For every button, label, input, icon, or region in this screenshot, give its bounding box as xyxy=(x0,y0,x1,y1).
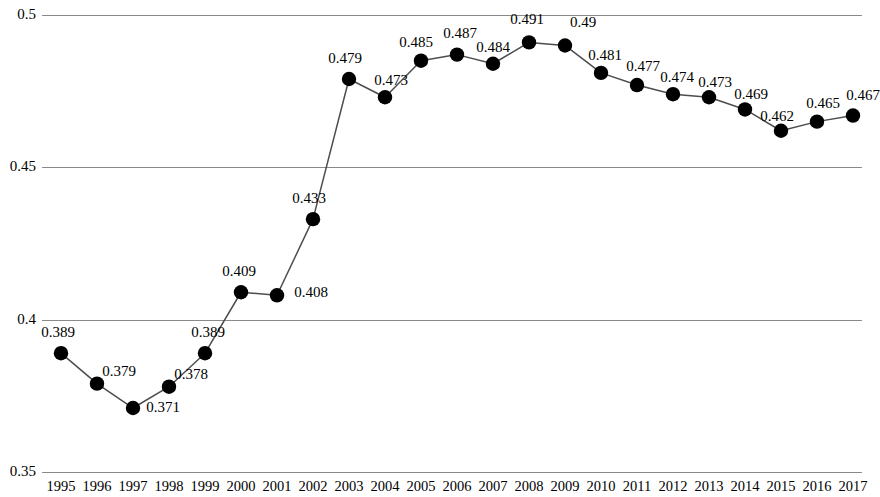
data-point-2001 xyxy=(270,288,284,302)
data-label-1996: 0.379 xyxy=(102,364,136,379)
data-label-2016: 0.465 xyxy=(806,96,840,111)
data-label-2000: 0.409 xyxy=(222,264,256,279)
data-label-2011: 0.477 xyxy=(626,59,660,74)
data-label-1999: 0.389 xyxy=(191,325,225,340)
data-point-2011 xyxy=(630,78,644,92)
data-point-1995 xyxy=(54,346,68,360)
data-label-2012: 0.474 xyxy=(660,70,694,85)
data-label-1998: 0.378 xyxy=(174,367,208,382)
data-point-2000 xyxy=(234,285,248,299)
data-label-2009: 0.49 xyxy=(570,15,596,30)
data-label-2004: 0.473 xyxy=(374,73,408,88)
data-label-2006: 0.487 xyxy=(443,26,477,41)
data-point-2005 xyxy=(414,54,428,68)
data-label-2010: 0.481 xyxy=(588,48,622,63)
data-point-2007 xyxy=(486,57,500,71)
data-label-2002: 0.433 xyxy=(292,191,326,206)
data-label-1997: 0.371 xyxy=(146,400,180,415)
data-label-2007: 0.484 xyxy=(476,40,510,55)
data-point-2014 xyxy=(738,102,752,116)
data-point-2008 xyxy=(522,35,536,49)
data-label-2008: 0.491 xyxy=(510,12,544,27)
data-point-2004 xyxy=(378,90,392,104)
data-point-2016 xyxy=(810,114,824,128)
data-point-2012 xyxy=(666,87,680,101)
data-point-2017 xyxy=(846,108,860,122)
data-label-2017: 0.467 xyxy=(846,88,880,103)
data-label-2015: 0.462 xyxy=(760,109,794,124)
data-label-2003: 0.479 xyxy=(328,51,362,66)
data-label-2001: 0.408 xyxy=(294,285,328,300)
data-point-2002 xyxy=(306,212,320,226)
data-point-2013 xyxy=(702,90,716,104)
data-point-2015 xyxy=(774,124,788,138)
data-label-2013: 0.473 xyxy=(698,75,732,90)
data-point-2010 xyxy=(594,66,608,80)
data-point-1999 xyxy=(198,346,212,360)
data-label-2005: 0.485 xyxy=(399,35,433,50)
data-point-2006 xyxy=(450,47,464,61)
data-label-1995: 0.389 xyxy=(41,325,75,340)
data-label-2014: 0.469 xyxy=(734,87,768,102)
data-point-2009 xyxy=(558,38,572,52)
data-point-2003 xyxy=(342,72,356,86)
data-point-1997 xyxy=(126,401,140,415)
